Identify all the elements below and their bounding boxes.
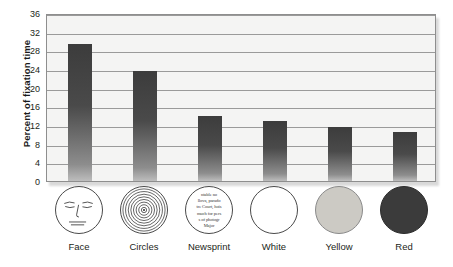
gridline-32 [47, 34, 435, 35]
y-tick-label-32: 32 [10, 28, 40, 38]
newsprint-icon: ntable nollova, paradotre Court, hoismuc… [185, 186, 233, 234]
y-tick-label-8: 8 [10, 140, 40, 150]
gridline-36 [47, 15, 435, 16]
category-label-yellow: Yellow [306, 241, 372, 252]
bar-chart-figure: Percent of fixation time 048121620242832… [0, 0, 453, 267]
y-tick-label-24: 24 [10, 65, 40, 75]
category-yellow: Yellow [306, 186, 372, 252]
y-tick-label-4: 4 [10, 158, 40, 168]
category-circles: Circles [111, 186, 177, 252]
white-circle-icon [250, 186, 298, 234]
y-tick-label-28: 28 [10, 46, 40, 56]
concentric-circles-icon [120, 186, 168, 234]
category-white: White [241, 186, 307, 252]
gridline-12 [47, 127, 435, 128]
gridline-24 [47, 71, 435, 72]
face-icon [55, 186, 103, 234]
y-tick-label-0: 0 [10, 177, 40, 187]
category-label-newsprint: Newsprint [176, 241, 242, 252]
y-tick-label-12: 12 [10, 121, 40, 131]
gridline-8 [47, 146, 435, 147]
y-tick-label-20: 20 [10, 84, 40, 94]
bar-newsprint [198, 116, 222, 181]
plot-wrapper [46, 14, 436, 182]
y-tick-label-16: 16 [10, 102, 40, 112]
bar-red [393, 132, 417, 181]
plot-area [46, 14, 436, 182]
gridline-20 [47, 90, 435, 91]
gridline-28 [47, 52, 435, 53]
bar-circles [133, 71, 157, 181]
category-label-face: Face [46, 241, 112, 252]
gridline-4 [47, 164, 435, 165]
bar-white [263, 121, 287, 181]
bar-yellow [328, 127, 352, 181]
red-circle-icon [380, 186, 428, 234]
yellow-circle-icon [315, 186, 363, 234]
y-tick-label-36: 36 [10, 9, 40, 19]
y-axis-tick-labels: 04812162024283236 [8, 14, 40, 182]
category-swatch-row: FaceCirclesntable nollova, paradotre Cou… [46, 186, 436, 264]
category-label-red: Red [371, 241, 437, 252]
category-red: Red [371, 186, 437, 252]
newsprint-text: ntable nollova, paradotre Court, hoismuc… [186, 187, 232, 233]
category-label-circles: Circles [111, 241, 177, 252]
category-face: Face [46, 186, 112, 252]
category-label-white: White [241, 241, 307, 252]
gridline-16 [47, 108, 435, 109]
bar-face [68, 44, 92, 181]
category-newsprint: ntable nollova, paradotre Court, hoismuc… [176, 186, 242, 252]
